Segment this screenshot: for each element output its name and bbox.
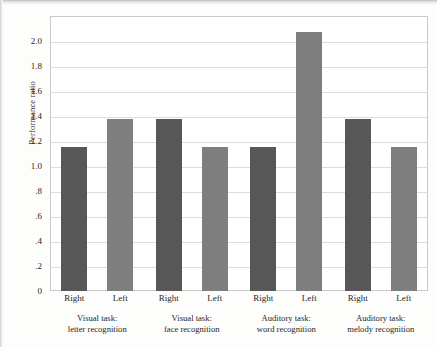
y-axis-tick-label: .2 <box>35 261 42 271</box>
y-axis-tick-label: 1.0 <box>31 161 42 171</box>
x-axis-group-label-line: Visual task: <box>164 313 220 324</box>
x-axis-side-label: Left <box>302 293 317 303</box>
x-axis-side-label: Right <box>253 293 273 303</box>
x-axis-group-label-line: word recognition <box>257 324 316 335</box>
x-axis-group-labels: Visual task:letter recognitionVisual tas… <box>50 313 428 345</box>
x-axis-group-label-line: melody recognition <box>347 324 414 335</box>
gridline <box>51 217 427 218</box>
y-axis-tick-label: .8 <box>35 186 42 196</box>
gridline <box>51 67 427 68</box>
x-axis-side-label: Left <box>207 293 222 303</box>
gridline <box>51 242 427 243</box>
y-axis-tick-label: .6 <box>35 211 42 221</box>
x-axis-group-label-line: Auditory task: <box>257 313 316 324</box>
gridline <box>51 267 427 268</box>
gridline <box>51 142 427 143</box>
y-axis-tick-label: .4 <box>35 236 42 246</box>
y-axis-tick-labels: 0.2.4.6.81.01.21.41.61.82.0 <box>0 16 46 291</box>
y-axis-tick-label: 1.8 <box>31 61 42 71</box>
gridline <box>51 117 427 118</box>
y-axis-tick-label: 1.4 <box>31 111 42 121</box>
scan-edge-artifact-top <box>0 0 437 5</box>
gridlines <box>51 17 427 290</box>
gridline <box>51 42 427 43</box>
gridline <box>51 192 427 193</box>
x-axis-side-label: Left <box>113 293 128 303</box>
x-axis-group-label-line: letter recognition <box>68 324 127 335</box>
gridline <box>51 92 427 93</box>
x-axis-side-label: Right <box>159 293 179 303</box>
y-axis-tick-label: 1.6 <box>31 86 42 96</box>
y-axis-tick-label: 1.2 <box>31 136 42 146</box>
gridline <box>51 167 427 168</box>
x-axis-side-label: Left <box>396 293 411 303</box>
x-axis-group-label-line: Visual task: <box>68 313 127 324</box>
x-axis-group-label: Visual task:face recognition <box>164 313 220 335</box>
y-axis-tick-label: 2.0 <box>31 36 42 46</box>
x-axis-side-labels: RightLeftRightLeftRightLeftRightLeft <box>50 293 428 309</box>
x-axis-group-label-line: face recognition <box>164 324 220 335</box>
y-axis-tick-label: 0 <box>38 286 43 296</box>
x-axis-side-label: Right <box>64 293 84 303</box>
x-axis-group-label: Auditory task:word recognition <box>257 313 316 335</box>
x-axis-group-label: Visual task:letter recognition <box>68 313 127 335</box>
x-axis-group-label-line: Auditory task: <box>347 313 414 324</box>
x-axis-group-label: Auditory task:melody recognition <box>347 313 414 335</box>
x-axis-side-label: Right <box>348 293 368 303</box>
plot-area <box>50 16 428 291</box>
bar-chart-figure: Performance ratio 0.2.4.6.81.01.21.41.61… <box>0 0 437 347</box>
